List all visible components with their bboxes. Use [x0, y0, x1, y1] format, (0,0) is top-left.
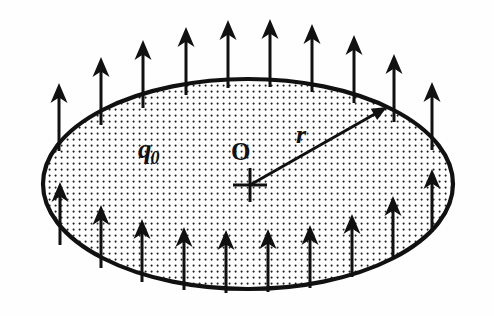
charge-symbol: q — [138, 134, 152, 164]
radius-label: r — [296, 122, 306, 148]
charge-subscript: 0 — [151, 148, 160, 168]
charge-label: q0 — [138, 136, 160, 167]
physics-figure: q0 O r — [0, 0, 494, 316]
center-label: O — [231, 139, 250, 164]
